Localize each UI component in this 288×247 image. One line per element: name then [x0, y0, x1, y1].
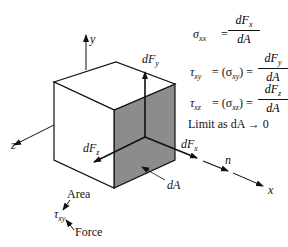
dFy-label: dFy — [142, 53, 159, 68]
dFz-label: dFz — [83, 142, 99, 157]
limit-text: Limit as dA → 0 — [188, 118, 269, 130]
legend-force-label: Force — [75, 226, 102, 238]
n-axis-label: n — [225, 154, 231, 166]
z-axis-arrow — [14, 125, 54, 145]
dFx-label: dFx — [181, 138, 198, 153]
x-axis-arrow — [233, 173, 263, 186]
legend-tau-symbol: τxy — [54, 208, 65, 223]
legend-force-arrow — [66, 220, 74, 230]
y-axis-label: y — [90, 33, 95, 45]
legend-area-label: Area — [67, 188, 90, 200]
dA-label: dA — [167, 179, 180, 191]
x-axis-label: x — [268, 184, 273, 196]
z-axis-label: z — [11, 139, 16, 151]
